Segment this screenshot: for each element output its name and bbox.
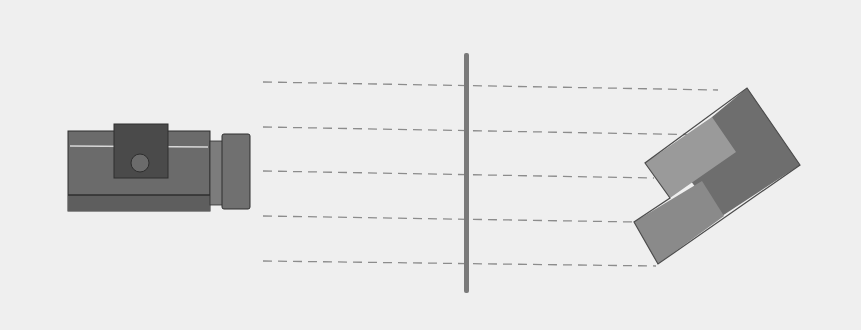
l-shaped-object [634,88,800,264]
camera-button [131,154,149,172]
ray-line-1 [263,82,718,90]
camera-body-bottom [68,195,210,211]
camera-lens [222,134,250,209]
projection-plane [464,53,469,293]
ray-line-2 [263,127,712,135]
ray-line-5 [263,261,656,266]
ray-line-3 [263,171,654,178]
ray-line-4 [263,216,636,222]
camera-lens-neck [210,141,223,205]
camera-icon [68,124,250,211]
diagram-svg [0,0,861,330]
diagram-canvas [0,0,861,330]
